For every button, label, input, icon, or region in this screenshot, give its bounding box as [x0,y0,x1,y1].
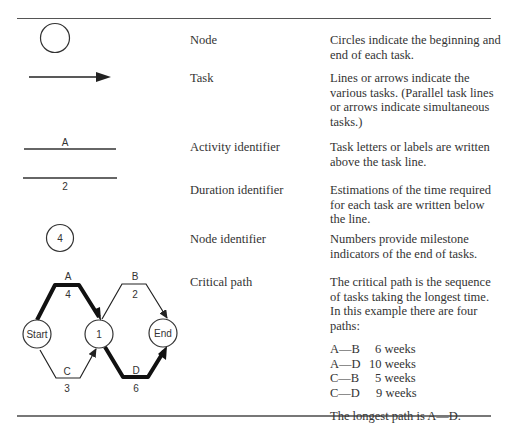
task-c-duration: 3 [64,383,70,394]
activity-label: A [62,137,69,148]
svg-text:Start: Start [26,329,47,340]
row-desc-activity-identifier: Task letters or labels are written above… [330,140,505,169]
row-name-duration-identifier: Duration identifier [190,183,283,198]
row-desc-duration-identifier: Estimations of the time required for eac… [330,183,500,227]
task-b-duration: 2 [132,289,138,300]
path-row: C—D 9 weeks [330,386,495,401]
task-arrow-icon [29,72,111,82]
path-row: A—B 6 weeks [330,342,495,357]
duration-identifier-icon: 2 [23,178,117,192]
duration-label: 2 [62,181,68,192]
task-a-duration: 4 [65,289,71,300]
task-c-label: C [63,366,70,377]
row-name-activity-identifier: Activity identifier [190,140,280,155]
task-d-duration: 6 [133,383,139,394]
task-d-label: D [132,365,139,376]
row-name-task: Task [190,71,213,86]
critical-path-conclusion: The longest path is A—D. [330,409,495,424]
critical-path-intro: The critical path is the sequence of tas… [330,275,495,334]
row-name-node-identifier: Node identifier [190,232,266,247]
node-identifier-icon: 4 [47,225,74,252]
node-circle-icon [41,24,70,53]
task-a-label: A [65,271,72,282]
paths-list: A—B 6 weeks A—D 10 weeks C—B 5 weeks C—D… [330,342,495,401]
row-desc-node: Circles indicate the beginning and end o… [330,33,505,62]
path-row: A—D 10 weeks [330,357,495,372]
row-desc-task: Lines or arrows indicate the various tas… [330,71,502,130]
row-desc-critical-path: The critical path is the sequence of tas… [330,275,495,423]
svg-text:End: End [154,328,172,339]
critical-path-diagram: Start 1 End A 4 B 2 C 3 D 6 [23,271,177,394]
row-name-critical-path: Critical path [190,275,252,290]
row-desc-node-identifier: Numbers provide milestone indicators of … [330,232,505,261]
activity-identifier-icon: A [24,137,116,149]
row-name-node: Node [190,33,217,48]
path-row: C—B 5 weeks [330,371,495,386]
task-b-label: B [132,271,139,282]
node-number-label: 4 [57,233,63,244]
svg-text:1: 1 [96,329,102,340]
